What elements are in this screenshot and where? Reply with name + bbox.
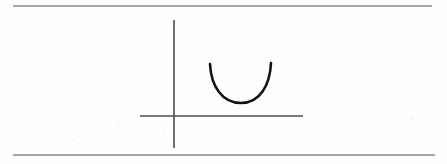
math-figure-canvas	[0, 0, 447, 164]
parabola-curve-path	[210, 63, 271, 103]
figure-page: Hand-drawn parabola opening upward plott…	[0, 0, 447, 164]
